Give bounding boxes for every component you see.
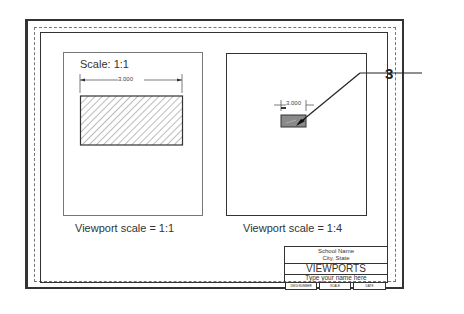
viewport-right-caption: Viewport scale = 1:4	[243, 222, 342, 234]
dimension-value-left: 3.000	[118, 76, 133, 82]
school-name: School Name	[285, 248, 387, 254]
name-prompt: Type your name here	[285, 274, 387, 281]
callout-number: 3	[385, 65, 393, 82]
drawing-title: VIEWPORTS	[285, 263, 387, 274]
field-dwg-number: DWG NUMBER	[285, 282, 317, 290]
field-date: DATE	[353, 282, 386, 290]
viewport-right[interactable]	[226, 53, 367, 216]
dimension-value-right: 3.000	[286, 100, 301, 106]
city-state: City, State	[285, 255, 387, 261]
field-scale: SCALE	[319, 282, 351, 290]
title-block: School Name City, State VIEWPORTS Type y…	[284, 246, 388, 283]
viewport-left-caption: Viewport scale = 1:1	[75, 222, 174, 234]
